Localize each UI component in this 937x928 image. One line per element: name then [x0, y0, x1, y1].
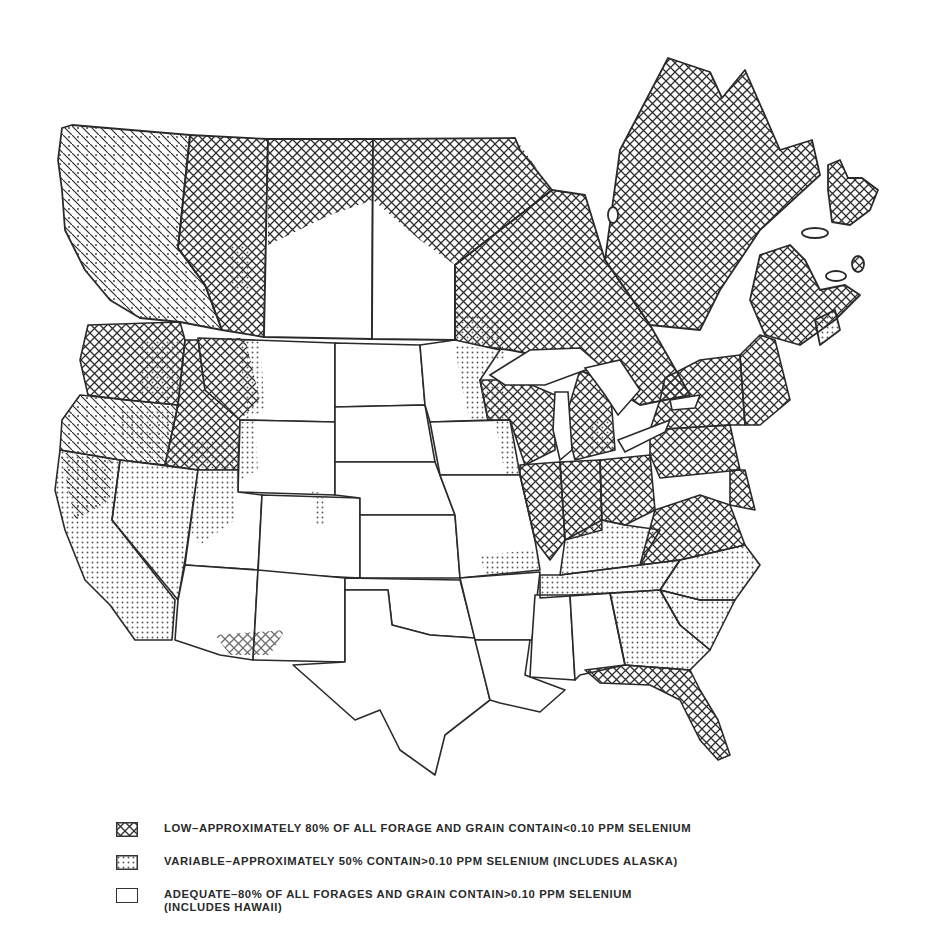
- legend-label-adequate-line1: ADEQUATE–80% OF ALL FORAGES AND GRAIN CO…: [164, 888, 632, 900]
- state-new-jersey-maryland: [730, 470, 755, 510]
- state-florida: [585, 665, 730, 760]
- legend-label-low: LOW–APPROXIMATELY 80% OF ALL FORAGE AND …: [164, 822, 691, 835]
- crosshatch-swatch-icon: [116, 822, 138, 837]
- legend-label-variable: VARIABLE–APPROXIMATELY 50% CONTAIN>0.10 …: [164, 855, 678, 868]
- state-south-dakota: [335, 405, 435, 462]
- state-ohio: [600, 455, 655, 525]
- state-colorado: [258, 495, 360, 578]
- lake-michigan: [553, 392, 572, 460]
- state-new-england: [740, 335, 790, 425]
- us-regions: [55, 322, 790, 775]
- state-mississippi: [530, 595, 575, 680]
- legend-item-low: LOW–APPROXIMATELY 80% OF ALL FORAGE AND …: [116, 822, 702, 837]
- legend-label-adequate: ADEQUATE–80% OF ALL FORAGES AND GRAIN CO…: [164, 888, 632, 914]
- legend-label-adequate-line2: (INCLUDES HAWAII): [164, 901, 282, 913]
- blank-swatch-icon: [116, 888, 138, 903]
- legend-item-variable: VARIABLE–APPROXIMATELY 50% CONTAIN>0.10 …: [116, 855, 688, 870]
- legend-item-adequate: ADEQUATE–80% OF ALL FORAGES AND GRAIN CO…: [116, 888, 642, 914]
- region-newfoundland: [828, 160, 878, 225]
- region-maritimes: [750, 245, 860, 345]
- state-north-dakota: [335, 343, 425, 407]
- selenium-map: [0, 0, 937, 800]
- stipple-swatch-icon: [116, 855, 138, 870]
- state-arkansas: [460, 572, 540, 640]
- state-kansas: [360, 515, 460, 578]
